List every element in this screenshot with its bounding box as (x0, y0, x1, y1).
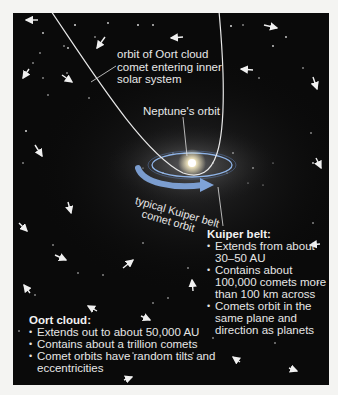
bullet-item: Comet orbits have random tilts and eccen… (29, 350, 219, 374)
bullet-item: Contains about a trillion comets (29, 338, 219, 350)
oort-orbit-label: orbit of Oort cloud comet entering inner… (117, 48, 222, 86)
kuiper-belt-title: Kuiper belt: (207, 228, 327, 240)
kuiper-belt-bullets: Extends from about 30–50 AU Contains abo… (207, 240, 327, 336)
label-line: comet entering inner (117, 61, 222, 74)
bullet-item: Extends from about 30–50 AU (207, 240, 327, 264)
label-line: solar system (117, 73, 222, 86)
bullet-item: Contains about 100,000 comets more than … (207, 264, 327, 300)
label-line: orbit of Oort cloud (117, 48, 222, 61)
oort-cloud-info: Oort cloud: Extends out to about 50,000 … (29, 314, 219, 374)
neptune-orbit-label: Neptune's orbit (143, 105, 220, 117)
kuiper-belt-info: Kuiper belt: Extends from about 30–50 AU… (207, 228, 327, 336)
bullet-item: Extends out to about 50,000 AU (29, 326, 219, 338)
oort-cloud-title: Oort cloud: (29, 314, 219, 326)
solar-system-diagram: orbit of Oort cloud comet entering inner… (13, 13, 329, 385)
oort-cloud-bullets: Extends out to about 50,000 AU Contains … (29, 326, 219, 374)
bullet-item: Comets orbit in the same plane and direc… (207, 300, 327, 336)
